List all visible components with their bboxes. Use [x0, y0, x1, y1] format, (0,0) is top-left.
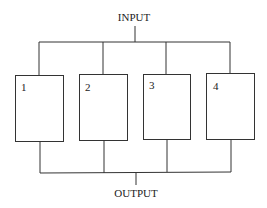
- output-bus: [40, 172, 231, 173]
- block-3-label: 3: [149, 79, 155, 91]
- input-label: INPUT: [118, 11, 151, 23]
- output-label: OUTPUT: [114, 187, 158, 199]
- block-4-label: 4: [213, 80, 219, 92]
- block-1-label: 1: [21, 81, 27, 93]
- block-2-label: 2: [85, 81, 91, 93]
- parallel-diagram: INPUT OUTPUT 1 2 3 4: [0, 0, 267, 208]
